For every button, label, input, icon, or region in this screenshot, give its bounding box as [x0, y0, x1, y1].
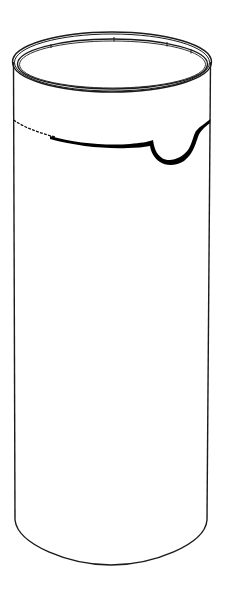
left-side-edge — [14, 62, 16, 520]
torn-edge-thick — [50, 119, 211, 165]
rim-inner-ellipse — [18, 39, 208, 89]
torn-band — [14, 119, 211, 165]
rim-inner-inner-ellipse — [20, 41, 206, 88]
cylinder-drawing — [0, 0, 227, 595]
bottom-edge — [15, 520, 207, 565]
rim-outer-inner-ellipse — [15, 34, 210, 91]
torn-edge-thin — [14, 120, 56, 137]
illustration-canvas: cylindrical container with torn band — [0, 0, 227, 595]
cylinder-body — [14, 62, 211, 565]
right-side-edge — [207, 62, 211, 520]
top-rim — [13, 32, 212, 92]
